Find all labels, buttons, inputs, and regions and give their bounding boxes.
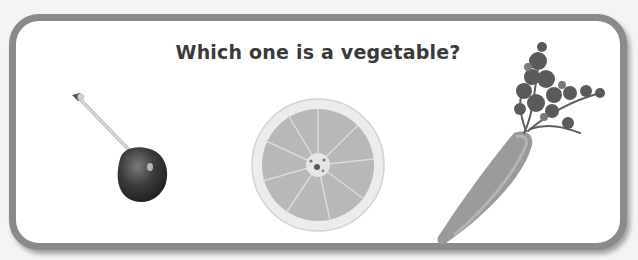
- question-panel: Which one is a vegetable?: [9, 14, 627, 250]
- orange-slice-icon: [248, 97, 388, 237]
- carrot-icon: [424, 37, 624, 251]
- option-orange[interactable]: [248, 97, 388, 237]
- option-carrot[interactable]: [424, 37, 624, 251]
- cherry-icon: [68, 89, 198, 219]
- option-cherry[interactable]: [68, 89, 198, 219]
